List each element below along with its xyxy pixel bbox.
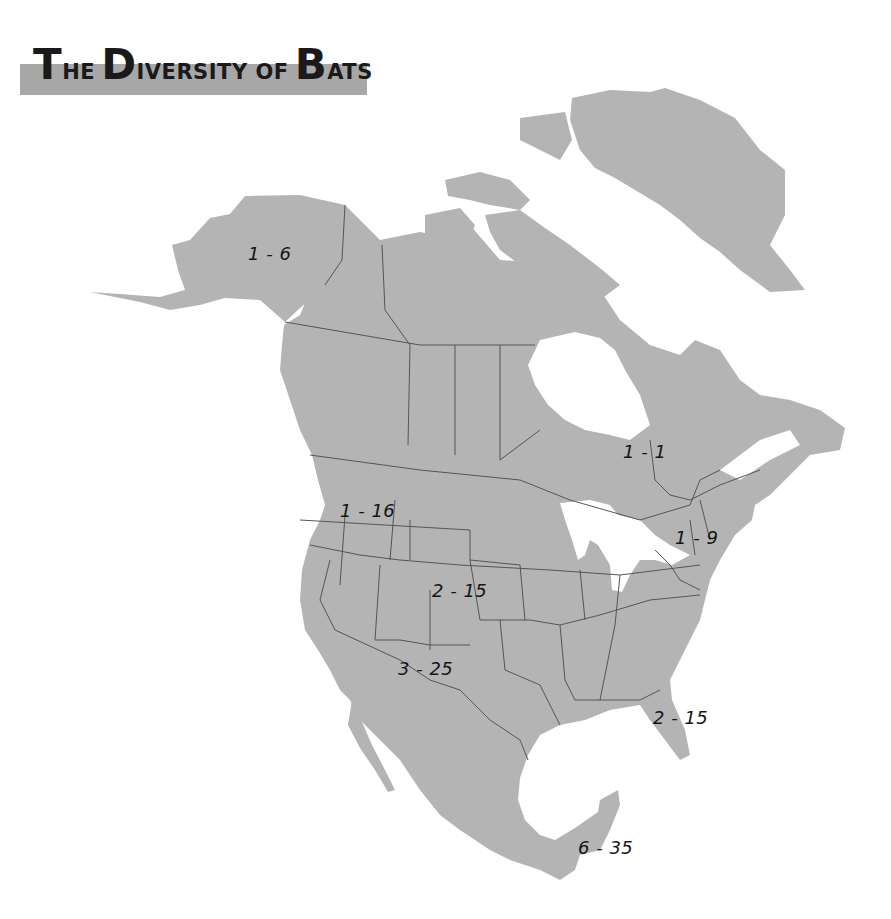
map-label-alaska: 1 - 6 xyxy=(248,243,291,264)
map-label-southern-mexico: 6 - 35 xyxy=(578,837,633,858)
greenland xyxy=(570,88,805,292)
north-america-map xyxy=(0,0,891,919)
map-label-florida: 2 - 15 xyxy=(653,707,708,728)
map-label-central-plains: 2 - 15 xyxy=(432,580,487,601)
mainland xyxy=(280,205,845,880)
map-label-pacific-northwest: 1 - 16 xyxy=(340,500,395,521)
map-label-southwest: 3 - 25 xyxy=(398,658,453,679)
map-label-hudson-bay-quebec: 1 - 1 xyxy=(623,441,666,462)
map-label-northeast: 1 - 9 xyxy=(675,527,718,548)
